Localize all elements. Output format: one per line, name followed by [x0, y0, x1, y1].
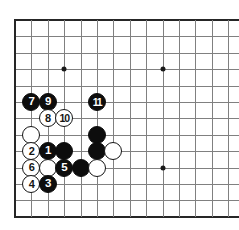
grid-line-vertical-10 [179, 20, 180, 217]
grid-line-vertical-9 [163, 20, 164, 217]
star-point-middle [160, 165, 165, 170]
stone-move-3: 3 [39, 175, 57, 193]
grid-line-vertical-12 [212, 20, 213, 217]
stone-move-5: 5 [55, 159, 73, 177]
grid-line-vertical-0 [14, 20, 16, 217]
stone-move-number-label: 7 [28, 96, 34, 108]
stone-move-9: 9 [39, 93, 57, 111]
grid-line-vertical-13 [228, 20, 229, 217]
grid-line-vertical-4 [81, 20, 82, 217]
stone-black-a [88, 126, 106, 144]
grid-line-vertical-6 [113, 20, 114, 217]
stone-move-2: 2 [22, 142, 40, 160]
stone-move-number-label: 9 [45, 96, 51, 108]
stone-black-c [88, 142, 106, 160]
stone-black-d [72, 159, 90, 177]
stone-move-11: 11 [88, 93, 106, 111]
stone-move-number-label: 8 [45, 113, 51, 124]
stone-move-number-label: 11 [93, 96, 102, 107]
stone-white-c [39, 159, 57, 177]
go-board-diagram: 7911810216543 [0, 0, 239, 230]
stone-black-b [55, 142, 73, 160]
stone-move-number-label: 6 [29, 162, 35, 173]
stone-white-b [104, 142, 122, 160]
star-point-upper-middle [160, 67, 165, 72]
stone-move-10: 10 [55, 109, 73, 127]
grid-line-vertical-5 [97, 20, 98, 217]
stone-move-number-label: 5 [61, 162, 67, 174]
star-point-upper-left [62, 67, 67, 72]
stone-move-8: 8 [39, 109, 57, 127]
stone-move-number-label: 10 [60, 113, 69, 124]
stone-move-number-label: 2 [29, 145, 35, 156]
stone-white-d [88, 159, 106, 177]
stone-move-4: 4 [22, 175, 40, 193]
stone-move-number-label: 4 [29, 178, 35, 189]
grid-line-vertical-7 [130, 20, 131, 217]
stone-move-7: 7 [22, 93, 40, 111]
grid-line-vertical-11 [195, 20, 196, 217]
stone-white-a [22, 126, 40, 144]
stone-move-number-label: 3 [45, 178, 51, 190]
stone-move-number-label: 1 [45, 145, 51, 157]
stone-move-1: 1 [39, 142, 57, 160]
grid-line-vertical-8 [146, 20, 147, 217]
stone-move-6: 6 [22, 159, 40, 177]
